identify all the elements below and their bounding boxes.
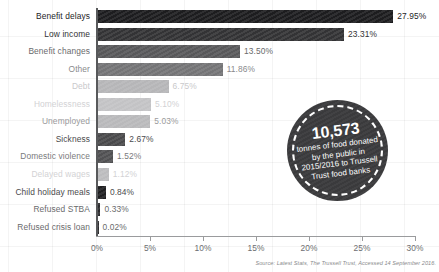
bar	[97, 45, 240, 58]
value-label: 6.75%	[173, 78, 197, 95]
category-label: Domestic violence	[0, 148, 90, 165]
x-axis-tick	[415, 236, 416, 241]
bar	[97, 150, 113, 163]
category-label: Benefit changes	[0, 43, 90, 60]
category-label: Debt	[0, 78, 90, 95]
x-axis-tick-label: 20%	[301, 243, 318, 253]
bar-hatch-texture	[97, 45, 240, 58]
x-axis-tick	[203, 236, 204, 241]
bar-hatch-texture	[97, 150, 113, 163]
bar	[97, 10, 393, 23]
source-note: Source: Latest Stats, The Trussell Trust…	[255, 260, 436, 266]
category-label: Delayed wages	[0, 166, 90, 183]
total-donations-badge: 10,573 tonnes of food donated by the pub…	[287, 100, 388, 201]
bar-row: Debt6.75%	[0, 78, 439, 95]
value-label: 1.52%	[117, 148, 141, 165]
bar	[97, 63, 223, 76]
bar-row: Benefit delays27.95%	[0, 8, 439, 25]
category-label: Benefit delays	[0, 8, 90, 25]
value-label: 5.03%	[154, 113, 178, 130]
category-label: Sickness	[0, 131, 90, 148]
bar-hatch-texture	[97, 10, 393, 23]
x-axis-tick	[256, 236, 257, 241]
bar	[97, 168, 109, 181]
x-axis-tick-label: 5%	[144, 243, 156, 253]
bar-row: Refused STBA0.33%	[0, 201, 439, 218]
bar-hatch-texture	[97, 80, 169, 93]
y-axis-line	[96, 8, 98, 236]
category-label: Unemployed	[0, 113, 90, 130]
bar-row: Benefit changes13.50%	[0, 43, 439, 60]
foodbank-referral-reasons-bar-chart: Benefit delays27.95%Low income23.31%Bene…	[0, 0, 439, 272]
x-axis-tick	[150, 236, 151, 241]
badge-text: 10,573 tonnes of food donated by the pub…	[288, 117, 386, 183]
bar	[97, 133, 125, 146]
value-label: 0.02%	[103, 219, 127, 236]
x-axis-tick-label: 25%	[354, 243, 371, 253]
category-label: Other	[0, 61, 90, 78]
value-label: 0.33%	[104, 201, 128, 218]
bar-hatch-texture	[97, 186, 106, 199]
category-label: Refused STBA	[0, 201, 90, 218]
value-label: 23.31%	[348, 26, 377, 43]
x-axis-tick-label: 30%	[407, 243, 424, 253]
bar-row: Homelessness5.10%	[0, 96, 439, 113]
value-label: 2.67%	[129, 131, 153, 148]
bar-row: Low income23.31%	[0, 26, 439, 43]
category-label: Refused crisis loan	[0, 219, 90, 236]
bar	[97, 80, 169, 93]
value-label: 13.50%	[244, 43, 273, 60]
value-label: 11.86%	[227, 61, 255, 78]
value-label: 1.12%	[113, 166, 137, 183]
bar-hatch-texture	[97, 98, 151, 111]
x-axis-tick-label: 0%	[91, 243, 103, 253]
bar-hatch-texture	[97, 168, 109, 181]
bar-hatch-texture	[97, 115, 150, 128]
bar	[97, 98, 151, 111]
category-label: Homelessness	[0, 96, 90, 113]
value-label: 0.84%	[110, 184, 134, 201]
value-label: 5.10%	[155, 96, 179, 113]
x-axis-tick	[362, 236, 363, 241]
x-axis-tick-label: 10%	[195, 243, 212, 253]
bar-hatch-texture	[97, 63, 223, 76]
bar-hatch-texture	[97, 133, 125, 146]
category-label: Child holiday meals	[0, 184, 90, 201]
bar	[97, 186, 106, 199]
value-label: 27.95%	[397, 8, 426, 25]
bar	[97, 115, 150, 128]
x-axis-tick-label: 15%	[248, 243, 265, 253]
bar-hatch-texture	[97, 28, 344, 41]
bar	[97, 28, 344, 41]
bar-row: Refused crisis loan0.02%	[0, 219, 439, 236]
x-axis-tick	[309, 236, 310, 241]
category-label: Low income	[0, 26, 90, 43]
bar-row: Other11.86%	[0, 61, 439, 78]
